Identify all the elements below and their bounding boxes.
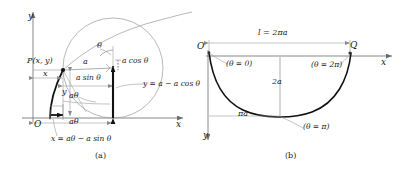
a-theta-label-leader	[79, 97, 96, 102]
x-equation-label: x = aθ − a sin θ	[51, 135, 111, 143]
theta-angle-label: θ	[97, 42, 102, 50]
radius-to-p-line	[64, 68, 113, 70]
a-theta-base-label: aθ	[69, 118, 79, 126]
segment-x-label: x	[43, 70, 48, 78]
theta-angle-arc	[100, 50, 113, 56]
half-length-label: πa	[238, 110, 248, 118]
a-sin-theta-label: a sin θ	[76, 74, 101, 82]
a-cos-theta-label: a cos θ	[122, 57, 148, 65]
point-q-dot	[348, 51, 351, 54]
panel-b-origin-dot	[208, 52, 211, 55]
cycloid-figure: y x O P(x, y) x y a θ a sin θ a cos θ aθ…	[0, 0, 406, 175]
theta-end-label: (θ = 2π)	[311, 61, 342, 69]
panel-b-y-axis-label: y	[203, 131, 208, 140]
panel-a-x-axis-label: x	[176, 120, 181, 129]
length-label: l = 2πa	[258, 29, 287, 37]
caption-a: (a)	[95, 152, 106, 160]
panel-b-graphics	[206, 40, 392, 140]
caption-b: (b)	[285, 152, 296, 160]
theta-mid-leader	[281, 117, 303, 128]
panel-b-x-axis-label: x	[381, 58, 386, 67]
point-p-label: P(x, y)	[27, 57, 53, 65]
panel-a-origin-label: O	[34, 120, 41, 129]
a-theta-arc-label: aθ	[69, 92, 79, 100]
theta-start-label: (θ = 0)	[226, 60, 252, 68]
radius-a-label: a	[83, 58, 88, 66]
point-q-label: Q	[350, 41, 357, 50]
segment-y-label: y	[62, 88, 67, 96]
figure-canvas	[0, 0, 406, 175]
y-equation-label: y = a − a cos θ	[143, 80, 200, 88]
panel-a-y-axis-label: y	[28, 12, 33, 21]
panel-b-origin-label: O	[197, 42, 204, 51]
height-label: 2a	[272, 78, 282, 86]
theta-mid-label: (θ = π)	[303, 123, 329, 131]
point-p-dot	[61, 68, 65, 72]
y-equation-leader	[116, 84, 146, 88]
